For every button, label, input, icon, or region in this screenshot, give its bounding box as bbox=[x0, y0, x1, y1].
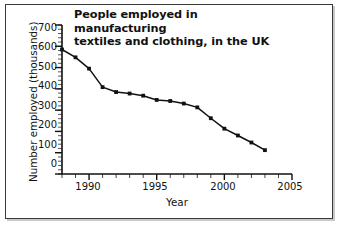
y-tick-label-700: 700 bbox=[27, 22, 57, 33]
y-tick-label-300: 300 bbox=[27, 100, 57, 111]
data-point-1993 bbox=[128, 92, 132, 96]
data-point-2002 bbox=[250, 141, 254, 145]
x-axis-label: Year bbox=[62, 196, 292, 208]
x-tick-label-1990: 1990 bbox=[68, 181, 108, 192]
data-point-1997 bbox=[182, 102, 186, 106]
data-point-1990 bbox=[87, 67, 91, 71]
y-tick-label-0: 0 bbox=[27, 158, 57, 169]
data-point-2003 bbox=[263, 148, 267, 152]
data-point-1992 bbox=[114, 90, 118, 94]
y-tick-label-100: 100 bbox=[27, 139, 57, 150]
y-tick-label-500: 500 bbox=[27, 61, 57, 72]
y-tick-label-200: 200 bbox=[27, 119, 57, 130]
chart-screenshot: People employed in manufacturing textile… bbox=[0, 0, 340, 227]
y-tick-label-600: 600 bbox=[27, 41, 57, 52]
chart-title-line-2: textiles and clothing, in the UK bbox=[74, 35, 290, 49]
data-point-2001 bbox=[236, 134, 240, 138]
data-point-1995 bbox=[155, 98, 159, 102]
data-point-1989 bbox=[74, 55, 78, 59]
data-series-line bbox=[62, 49, 265, 150]
x-tick-label-1995: 1995 bbox=[135, 181, 175, 192]
chart-title-line-1: People employed in manufacturing bbox=[74, 8, 290, 35]
data-point-2000 bbox=[222, 127, 226, 131]
data-point-1988 bbox=[60, 48, 64, 52]
y-tick-label-400: 400 bbox=[27, 80, 57, 91]
x-tick-label-2005: 2005 bbox=[270, 181, 310, 192]
data-point-1994 bbox=[141, 94, 145, 98]
data-point-1991 bbox=[101, 85, 105, 89]
data-point-1996 bbox=[168, 99, 172, 103]
data-point-1998 bbox=[195, 105, 199, 109]
data-point-1999 bbox=[209, 116, 213, 120]
x-axis-minor-ticks bbox=[62, 174, 292, 180]
x-tick-label-2000: 2000 bbox=[203, 181, 243, 192]
chart-title: People employed in manufacturing textile… bbox=[74, 8, 290, 49]
